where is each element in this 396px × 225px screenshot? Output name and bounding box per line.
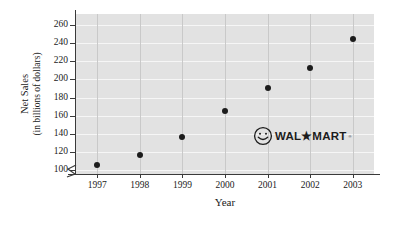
gridline-vertical [97, 14, 98, 174]
gridline-vertical [268, 14, 269, 174]
y-axis-title: Net Sales (in billions of dollars) [19, 19, 43, 169]
plot-area [76, 14, 374, 174]
y-axis-tick [70, 25, 75, 26]
y-axis-tick [70, 98, 75, 99]
data-point [265, 85, 271, 91]
x-axis-tick [310, 174, 311, 178]
x-axis-tick [268, 174, 269, 178]
x-tick-label: 1997 [77, 180, 117, 190]
gridline-vertical [182, 14, 183, 174]
x-axis-tick [182, 174, 183, 178]
y-axis-title-line2: (in billions of dollars) [31, 19, 43, 169]
y-axis-tick [70, 170, 75, 171]
data-point [350, 36, 356, 42]
gridline-vertical [140, 14, 141, 174]
y-axis-tick [70, 43, 75, 44]
x-axis-line [68, 174, 380, 175]
y-axis-line [75, 10, 76, 174]
data-point [307, 65, 313, 71]
x-axis-tick [225, 174, 226, 178]
chart-figure: 100120140160180200220240260 199719981999… [0, 0, 396, 225]
y-axis-tick [70, 134, 75, 135]
x-axis-tick [353, 174, 354, 178]
y-axis-tick [70, 79, 75, 80]
x-tick-label: 1999 [162, 180, 202, 190]
x-axis-tick [140, 174, 141, 178]
y-axis-tick [70, 152, 75, 153]
gridline-vertical [310, 14, 311, 174]
y-axis-title-line1: Net Sales [19, 19, 31, 169]
data-point [179, 134, 185, 140]
x-tick-label: 2000 [205, 180, 245, 190]
data-point [94, 162, 100, 168]
registered-trademark-icon: ® [348, 134, 351, 139]
data-point [222, 108, 228, 114]
y-axis-tick [70, 116, 75, 117]
x-tick-label: 1998 [120, 180, 160, 190]
wal-mart-wordmark: WAL★MART [275, 129, 346, 143]
wal-mart-logo: WAL★MART ® [253, 126, 351, 146]
x-axis-title: Year [215, 196, 235, 208]
x-axis-tick [97, 174, 98, 178]
smiley-face-icon [253, 126, 273, 146]
y-axis-tick [70, 61, 75, 62]
x-tick-label: 2002 [290, 180, 330, 190]
gridline-vertical [225, 14, 226, 174]
x-tick-label: 2003 [333, 180, 373, 190]
data-point [137, 152, 143, 158]
x-tick-label: 2001 [248, 180, 288, 190]
